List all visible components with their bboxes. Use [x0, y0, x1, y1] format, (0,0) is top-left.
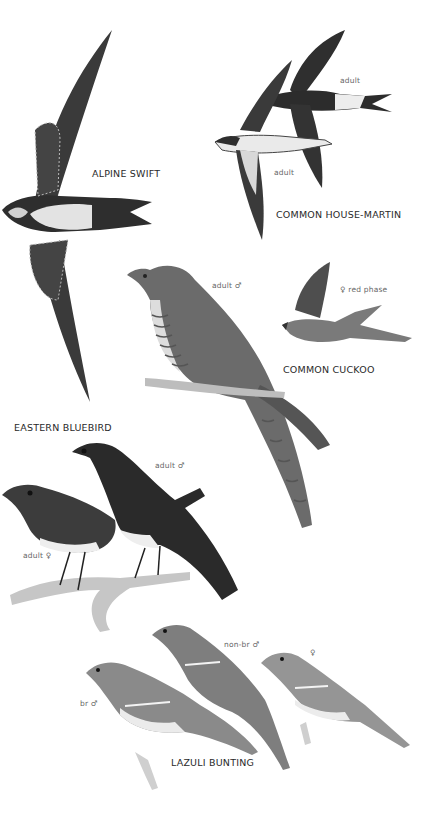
bird-illustrations [0, 0, 443, 814]
house-martin-adult-label-lower: adult [274, 168, 294, 177]
bunting-female-label: ♀ [310, 648, 316, 657]
species-label-lazuli-bunting: LAZULI BUNTING [171, 757, 254, 768]
bluebird-adult-male-label: adult ♂ [155, 461, 185, 470]
bunting-breeding-male-label: br ♂ [80, 699, 98, 708]
cuckoo-female-red-phase-label: ♀ red phase [340, 285, 387, 294]
species-label-common-house-martin: COMMON HOUSE-MARTIN [276, 209, 401, 220]
eastern-bluebird-illustration [2, 443, 238, 632]
house-martin-adult-label-upper: adult [340, 76, 360, 85]
species-label-alpine-swift: ALPINE SWIFT [92, 168, 160, 179]
cuckoo-flying-illustration [282, 262, 412, 342]
cuckoo-adult-male-label: adult ♂ [212, 281, 242, 290]
species-label-common-cuckoo: COMMON CUCKOO [283, 364, 375, 375]
field-guide-plate: ALPINE SWIFT adult adult COMMON HOUSE-MA… [0, 0, 443, 814]
species-label-eastern-bluebird: EASTERN BLUEBIRD [14, 422, 112, 433]
bluebird-adult-female-label: adult ♀ [23, 551, 51, 560]
bunting-non-breeding-male-label: non-br ♂ [224, 640, 259, 649]
alpine-swift-illustration [2, 30, 152, 402]
